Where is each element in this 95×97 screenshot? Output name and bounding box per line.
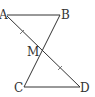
label-m: M <box>27 45 39 59</box>
label-b: B <box>61 8 70 22</box>
geometry-diagram: A B M C D <box>0 0 95 97</box>
segment-ad <box>7 16 80 87</box>
label-a: A <box>0 8 8 22</box>
label-d: D <box>80 81 90 95</box>
diagram-svg: A B M C D <box>0 0 95 97</box>
label-c: C <box>14 81 23 95</box>
